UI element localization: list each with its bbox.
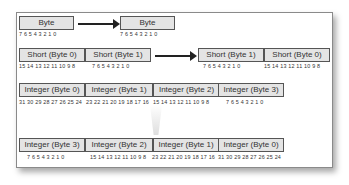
int-target-byte0-bits: 31 30 29 28 27 26 25 24	[218, 154, 281, 160]
byte-source-box: Byte	[19, 16, 74, 30]
int-source-byte1-box: Integer (Byte 1)	[85, 83, 153, 97]
int-source-byte2-bits: 15 14 13 12 11 10 9 8	[153, 99, 209, 105]
int-source-byte1-bits: 23 22 21 20 19 18 17 16	[86, 99, 149, 105]
int-target-byte2-bits: 15 14 13 12 11 10 9 8	[90, 154, 146, 160]
int-source-byte0-bits: 31 30 29 28 27 26 25 24	[19, 99, 82, 105]
short-source-byte1-bits: 7 6 5 4 3 2 1 0	[92, 63, 129, 69]
int-target-byte1-box: Integer (Byte 1)	[153, 138, 219, 152]
byte-target-box: Byte	[120, 16, 175, 30]
int-target-byte1-bits: 23 22 21 20 19 18 17 16	[152, 154, 215, 160]
arrow-right-icon	[155, 55, 191, 57]
short-target-byte1-box: Short (Byte 1)	[198, 48, 264, 62]
int-target-byte3-bits: 7 6 5 4 3 2 1 0	[27, 154, 64, 160]
int-source-byte0-box: Integer (Byte 0)	[19, 83, 85, 97]
short-target-byte1-bits: 7 6 5 4 3 2 1 0	[203, 63, 240, 69]
short-source-byte0-bits: 15 14 13 12 11 10 9 8	[19, 63, 75, 69]
short-source-byte1-box: Short (Byte 1)	[85, 48, 151, 62]
int-source-byte3-box: Integer (Byte 3)	[218, 83, 284, 97]
short-target-byte0-bits: 15 14 13 12 11 10 9 8	[264, 63, 320, 69]
short-source-byte0-box: Short (Byte 0)	[19, 48, 85, 62]
int-target-byte0-box: Integer (Byte 0)	[218, 138, 284, 152]
int-target-byte3-box: Integer (Byte 3)	[19, 138, 85, 152]
int-source-byte3-bits: 7 6 5 4 3 2 1 0	[226, 99, 263, 105]
arrow-right-icon	[78, 23, 114, 25]
int-target-byte2-box: Integer (Byte 2)	[85, 138, 153, 152]
byte-target-bits: 7 6 5 4 3 2 1 0	[120, 31, 157, 37]
short-target-byte0-box: Short (Byte 0)	[264, 48, 330, 62]
int-source-byte2-box: Integer (Byte 2)	[153, 83, 220, 97]
byte-source-bits: 7 6 5 4 3 2 1 0	[19, 31, 56, 37]
